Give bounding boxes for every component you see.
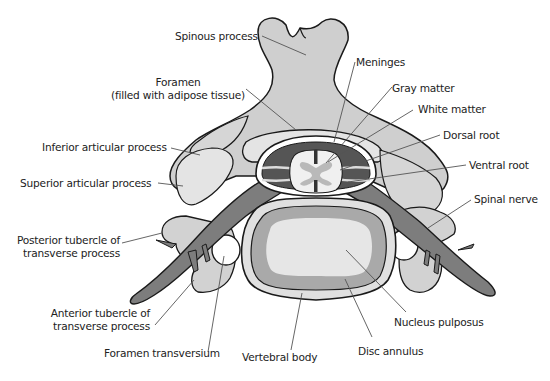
label-meninges: Meninges — [356, 56, 405, 69]
label-anterior-tubercle-line1: Anterior tubercle of — [42, 307, 150, 320]
label-vertebral-body: Vertebral body — [242, 351, 317, 364]
label-foramen-transversium: Foramen transversium — [104, 347, 220, 360]
nucleus-pulposus-shape — [266, 218, 372, 276]
label-posterior-tubercle-line2: transverse process — [10, 247, 120, 260]
label-posterior-tubercle-line1: Posterior tubercle of — [10, 234, 120, 247]
vertebra-diagram: Spinous process Foramen (filled with adi… — [0, 0, 550, 381]
label-anterior-tubercle: Anterior tubercle of transverse process — [42, 307, 150, 333]
label-spinal-nerve: Spinal nerve — [474, 193, 538, 206]
label-disc-annulus: Disc annulus — [358, 345, 423, 358]
label-spinous-process: Spinous process — [175, 30, 258, 43]
label-nucleus-pulposus: Nucleus pulposus — [394, 316, 484, 329]
label-gray-matter: Gray matter — [392, 82, 455, 95]
label-inferior-articular-process: Inferior articular process — [42, 141, 167, 154]
label-white-matter: White matter — [418, 103, 486, 116]
label-dorsal-root: Dorsal root — [443, 129, 499, 142]
label-foramen-line2: (filled with adipose tissue) — [108, 89, 248, 102]
label-anterior-tubercle-line2: transverse process — [42, 320, 150, 333]
label-foramen-line1: Foramen — [108, 76, 248, 89]
label-foramen: Foramen (filled with adipose tissue) — [108, 76, 248, 102]
label-superior-articular-process: Superior articular process — [20, 177, 151, 190]
label-posterior-tubercle: Posterior tubercle of transverse process — [10, 234, 120, 260]
label-ventral-root: Ventral root — [469, 159, 529, 172]
